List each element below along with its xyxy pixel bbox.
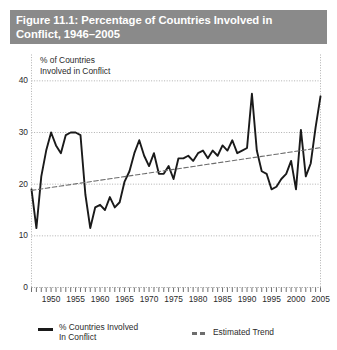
x-axis-tick-label: 1960 [89, 294, 111, 304]
x-axis-tick-label: 2000 [285, 294, 307, 304]
x-axis-tick-label: 1965 [114, 294, 136, 304]
dashed-line-swatch-icon [192, 332, 207, 335]
x-axis-tick-label: 1980 [187, 294, 209, 304]
x-axis-tick-label: 1985 [212, 294, 234, 304]
legend-label-series: % Countries Involved In Conflict [59, 322, 138, 343]
x-axis-tick-label: 1975 [163, 294, 185, 304]
data-series-line [32, 94, 321, 228]
x-axis-tick-label: 1995 [261, 294, 283, 304]
x-axis-tick-label: 1950 [40, 294, 62, 304]
legend-label-trend: Estimated Trend [213, 327, 274, 337]
x-axis-tick-label: 1990 [236, 294, 258, 304]
y-axis-tick-label: 0 [14, 282, 28, 292]
y-axis-tick-label: 30 [14, 127, 28, 137]
legend-item-series: % Countries Involved In Conflict [38, 322, 138, 343]
solid-line-swatch-icon [38, 328, 53, 331]
legend-item-trend: Estimated Trend [192, 327, 274, 337]
x-axis-tick-label: 2005 [310, 294, 332, 304]
x-axis-tick-label: 1970 [138, 294, 160, 304]
y-axis-tick-label: 20 [14, 179, 28, 189]
figure-container: Figure 11.1: Percentage of Countries Inv… [0, 0, 337, 350]
chart-legend: % Countries Involved In Conflict Estimat… [30, 322, 330, 348]
y-axis-tick-label: 10 [14, 230, 28, 240]
y-axis-tick-label: 40 [14, 75, 28, 85]
x-axis-tick-label: 1955 [65, 294, 87, 304]
